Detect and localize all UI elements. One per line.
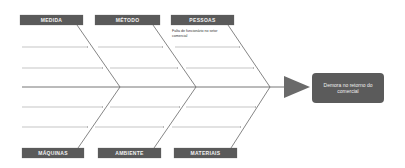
spine-arrowhead-icon	[284, 76, 310, 98]
effect-label: Demora no retorno do comercial	[316, 82, 380, 95]
category-maquinas: MÁQUINAS	[22, 148, 84, 158]
effect-box: Demora no retorno do comercial	[312, 73, 384, 103]
category-pessoas: PESSOAS	[171, 15, 234, 25]
cause-pessoas: Falta de funcionário no setor comercial	[172, 29, 232, 38]
category-medida: MEDIDA	[20, 15, 83, 25]
category-materiais: MATERIAIS	[174, 148, 237, 158]
category-metodo: MÉTODO	[95, 15, 160, 25]
fishbone-diagram: MEDIDA MÉTODO PESSOAS Falta de funcionár…	[0, 0, 405, 168]
category-ambiente: AMBIENTE	[98, 148, 161, 158]
